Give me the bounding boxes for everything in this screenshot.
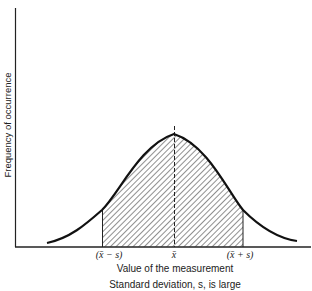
normal-distribution-diagram (0, 0, 312, 291)
caption: Standard deviation, s, is large (109, 279, 241, 290)
tick-mean-minus-s: (x̄ − s) (96, 249, 123, 260)
tick-mean-plus-s: (x̄ + s) (227, 249, 254, 260)
tick-mean: x̄ (172, 249, 176, 260)
shaded-region (47, 134, 297, 247)
y-axis-label: Frequency of occurrence (2, 72, 13, 177)
x-axis-label: Value of the measurement (117, 263, 234, 274)
